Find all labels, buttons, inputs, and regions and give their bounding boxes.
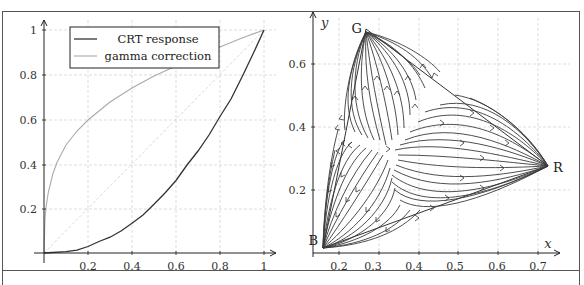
vertex-label-g: G xyxy=(352,21,362,36)
legend-label-crt: CRT response xyxy=(117,32,198,46)
right-x-tick-label: 0.6 xyxy=(488,260,506,273)
left-x-tick-label: 0.2 xyxy=(79,260,97,273)
right-grid xyxy=(313,18,570,253)
right-x-tick-label: 0.4 xyxy=(405,260,423,273)
right-x-tick-label: 0.3 xyxy=(364,260,382,273)
vertex-label-r: R xyxy=(553,160,564,175)
right-x-axis-label: x xyxy=(544,236,552,251)
left-y-tick-label: 1 xyxy=(30,24,37,37)
left-y-tick-label: 0.4 xyxy=(20,159,38,172)
right-y-tick-label: 0.2 xyxy=(289,184,307,197)
vertex-label-b: B xyxy=(308,233,318,248)
left-x-tick-label: 0.4 xyxy=(123,260,141,273)
right-x-tick-label: 0.5 xyxy=(446,260,464,273)
left-x-tick-label: 1 xyxy=(261,260,268,273)
right-y-tick-label: 0.4 xyxy=(289,121,307,134)
right-y-axis-label: y xyxy=(320,15,329,30)
legend-label-gamma: gamma correction xyxy=(105,49,212,63)
left-y-tick-label: 0.2 xyxy=(20,203,38,216)
left-x-tick-label: 0.8 xyxy=(211,260,229,273)
left-y-tick-label: 0.8 xyxy=(20,69,38,82)
figure-svg: 0.2 0.4 0.6 0.8 1 0.2 0.4 0.6 0.8 1 CRT … xyxy=(0,0,584,285)
left-y-tick-label: 0.6 xyxy=(20,114,38,127)
right-x-tick-label: 0.2 xyxy=(330,260,348,273)
left-x-tick-label: 0.6 xyxy=(167,260,185,273)
right-y-tick-label: 0.6 xyxy=(289,58,307,71)
white-point-marker xyxy=(386,146,390,152)
right-plot: 0.2 0.3 0.4 0.5 0.6 0.7 0.2 0.4 0.6 x y … xyxy=(289,12,571,273)
left-plot: 0.2 0.4 0.6 0.8 1 0.2 0.4 0.6 0.8 1 CRT … xyxy=(20,20,277,273)
legend: CRT response gamma correction xyxy=(70,27,219,68)
right-x-tick-label: 0.7 xyxy=(529,260,547,273)
